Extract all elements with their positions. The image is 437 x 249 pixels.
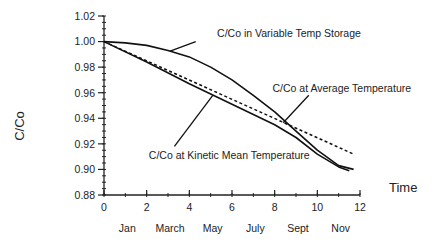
x-tick-label: 4 <box>186 201 192 213</box>
x-tick-label: 8 <box>272 201 278 213</box>
annotation-pointer <box>283 95 309 122</box>
y-axis-title: C/Co <box>12 111 27 141</box>
y-tick-label: 0.94 <box>75 112 96 124</box>
y-tick-label: 0.98 <box>75 61 96 73</box>
y-tick-label: 1.02 <box>75 10 96 22</box>
x-axis-title: Time <box>389 180 417 195</box>
x-tick-label: 0 <box>101 201 107 213</box>
y-tick-label: 0.96 <box>75 87 96 99</box>
annotation-label: C/Co in Variable Temp Storage <box>217 27 361 39</box>
annotation-label: C/Co at Average Temperature <box>273 82 412 94</box>
x-tick-label: 12 <box>354 201 366 213</box>
annotation-pointer <box>174 95 212 146</box>
axes: 0.880.900.920.940.960.981.001.0202468101… <box>75 10 366 234</box>
month-label: Nov <box>331 222 350 234</box>
month-label: March <box>155 222 184 234</box>
annotation-label: C/Co at Kinetic Mean Temperature <box>149 149 310 161</box>
annotations: C/Co in Variable Temp StorageC/Co at Ave… <box>149 27 411 160</box>
month-label: July <box>246 222 265 234</box>
line-chart: 0.880.900.920.940.960.981.001.0202468101… <box>0 0 437 249</box>
y-tick-label: 0.92 <box>75 138 96 150</box>
month-label: May <box>203 222 224 234</box>
y-tick-label: 0.88 <box>75 189 96 201</box>
y-tick-label: 0.90 <box>75 163 96 175</box>
x-tick-label: 2 <box>144 201 150 213</box>
month-label: Jan <box>119 222 136 234</box>
x-tick-label: 10 <box>311 201 323 213</box>
annotation-pointer <box>170 42 196 52</box>
y-tick-label: 1.00 <box>75 35 96 47</box>
series-line-2 <box>104 42 354 155</box>
month-label: Sept <box>287 222 309 234</box>
x-tick-label: 6 <box>229 201 235 213</box>
